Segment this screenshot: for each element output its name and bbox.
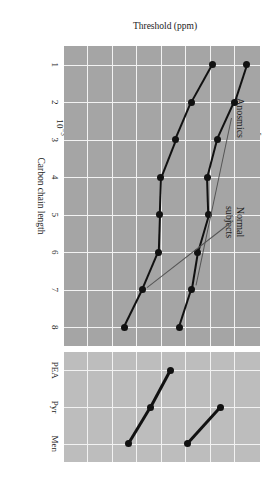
gridline-horizontal xyxy=(112,46,113,346)
x-axis-tick-label: 4 xyxy=(50,167,60,187)
data-point xyxy=(167,367,174,374)
category-tick-label: PEA xyxy=(50,350,60,390)
plot-area-categories xyxy=(64,352,260,462)
annotation-normal-subjects: Normalsubjects xyxy=(224,177,246,267)
chart-figure: Threshold (ppm) 10510410310210110010−110… xyxy=(0,0,278,488)
x-axis-title: Carbon chain length xyxy=(36,46,46,346)
gridline-vertical xyxy=(64,140,260,141)
gridline-vertical xyxy=(64,444,260,445)
data-point xyxy=(157,174,164,181)
x-axis-tick-label: 6 xyxy=(50,242,60,262)
gridline-vertical xyxy=(64,327,260,328)
gridline-horizontal xyxy=(210,46,211,346)
x-axis-tick-label: 2 xyxy=(50,92,60,112)
category-tick-label: Pyr xyxy=(50,387,60,427)
category-tick-label: Men xyxy=(50,424,60,464)
data-point xyxy=(209,61,216,68)
gridline-vertical xyxy=(64,290,260,291)
y-axis-title: Threshold (ppm) xyxy=(95,21,235,31)
data-point xyxy=(214,136,221,143)
gridline-vertical xyxy=(64,65,260,66)
data-point xyxy=(204,174,211,181)
gridline-vertical xyxy=(64,407,260,408)
annotation-label: Normalsubjects xyxy=(224,206,246,238)
data-point xyxy=(217,404,224,411)
annotation-label: Anosmics xyxy=(235,98,246,138)
annotation-anosmics: Anosmics xyxy=(235,73,246,163)
x-axis-tick-label: 7 xyxy=(50,280,60,300)
data-point xyxy=(188,99,195,106)
x-axis-tick-label: 8 xyxy=(50,317,60,337)
x-axis-tick-label: 3 xyxy=(50,130,60,150)
x-axis-tick-label: 5 xyxy=(50,205,60,225)
data-point xyxy=(121,324,128,331)
rotated-figure-stage: Threshold (ppm) 10510410310210110010−110… xyxy=(0,0,278,488)
gridline-vertical xyxy=(64,370,260,371)
data-point xyxy=(176,324,183,331)
x-axis-tick-label: 1 xyxy=(50,55,60,75)
gridline-horizontal xyxy=(88,46,89,346)
data-point xyxy=(155,249,162,256)
